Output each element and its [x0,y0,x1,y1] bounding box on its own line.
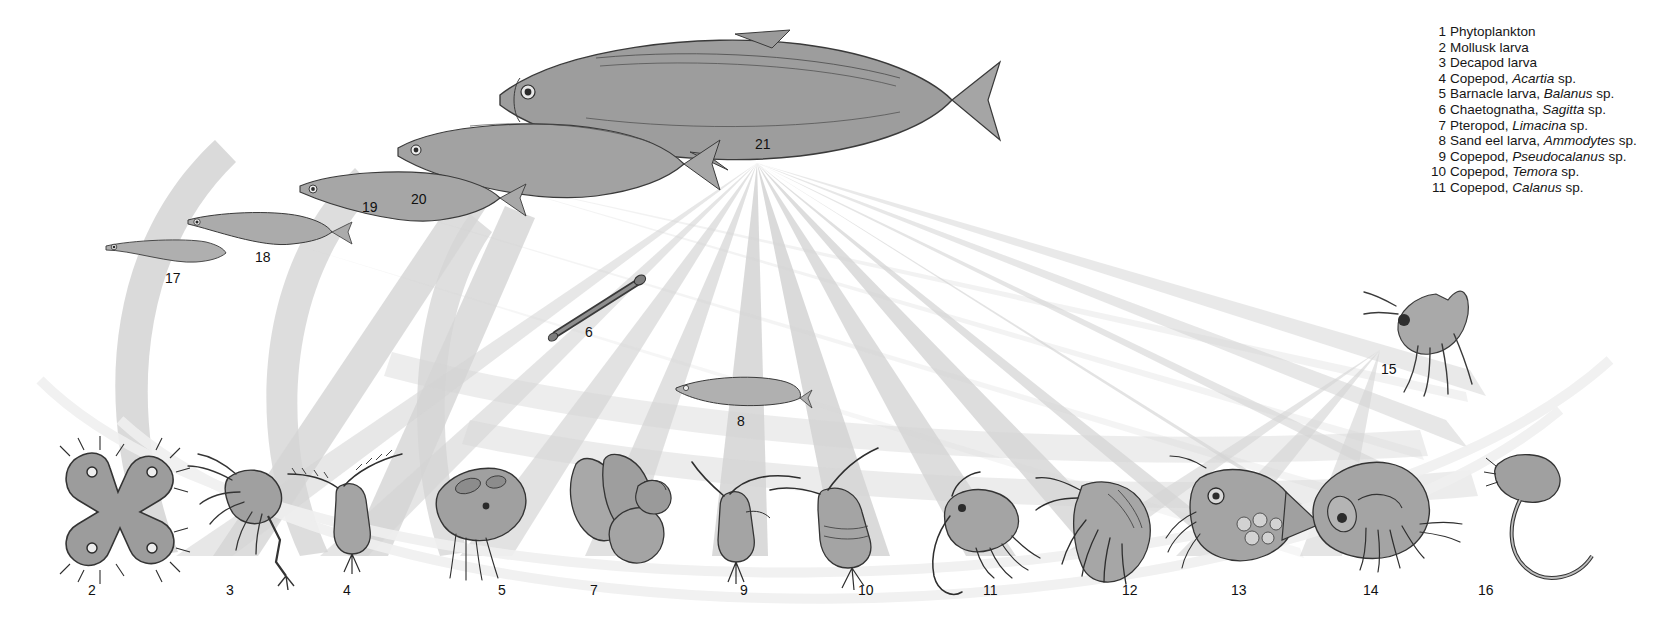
legend-suffix: sp. [1562,180,1584,195]
label-4: 4 [343,583,351,597]
label-6: 6 [585,325,593,339]
species-legend: 1Phytoplankton2Mollusk larva3Decapod lar… [1428,24,1654,196]
legend-text: Chaetognatha, [1450,102,1542,117]
legend-suffix: sp. [1605,149,1627,164]
legend-text: Pteropod, [1450,118,1512,133]
legend-item-11: 11Copepod, Calanus sp. [1428,180,1654,196]
label-15: 15 [1381,362,1397,376]
legend-text: Copepod, [1450,180,1512,195]
label-9: 9 [740,583,748,597]
legend-genus: Pseudocalanus [1512,149,1604,164]
legend-genus: Limacina [1512,118,1566,133]
label-11: 11 [983,583,998,597]
legend-suffix: sp. [1593,86,1615,101]
legend-genus: Balanus [1544,86,1593,101]
legend-suffix: sp. [1584,102,1606,117]
label-16: 16 [1478,583,1494,597]
legend-item-7: 7Pteropod, Limacina sp. [1428,118,1654,134]
legend-suffix: sp. [1615,133,1637,148]
label-5: 5 [498,583,506,597]
label-20: 20 [411,192,427,206]
legend-item-6: 6Chaetognatha, Sagitta sp. [1428,102,1654,118]
legend-number: 2 [1428,40,1446,56]
label-7: 7 [590,583,598,597]
label-13: 13 [1231,583,1247,597]
figure-canvas: 2 3 4 5 6 7 8 9 10 11 12 13 14 15 16 17 … [0,0,1654,642]
legend-number: 8 [1428,133,1446,149]
legend-genus: Temora [1512,164,1557,179]
legend-number: 9 [1428,149,1446,165]
legend-item-10: 10Copepod, Temora sp. [1428,164,1654,180]
legend-item-1: 1Phytoplankton [1428,24,1654,40]
legend-number: 6 [1428,102,1446,118]
legend-text: Sand eel larva, [1450,133,1544,148]
legend-item-4: 4Copepod, Acartia sp. [1428,71,1654,87]
legend-genus: Calanus [1512,180,1562,195]
art-worm-16 [1484,455,1592,578]
art-sand-eel-larva-8 [676,377,812,408]
label-17: 17 [165,271,181,285]
label-10: 10 [858,583,874,597]
trophic-flow-ribbons [0,0,1654,642]
legend-suffix: sp. [1558,164,1580,179]
label-21: 21 [755,137,771,151]
legend-number: 1 [1428,24,1446,40]
label-8: 8 [737,414,745,428]
legend-text: Copepod, [1450,164,1512,179]
legend-number: 10 [1428,164,1446,180]
legend-number: 5 [1428,86,1446,102]
legend-text: Barnacle larva, [1450,86,1544,101]
label-19: 19 [362,200,378,214]
label-12: 12 [1122,583,1138,597]
legend-genus: Sagitta [1542,102,1584,117]
art-herring-larva-17 [106,240,226,262]
legend-suffix: sp. [1554,71,1576,86]
legend-item-5: 5Barnacle larva, Balanus sp. [1428,86,1654,102]
legend-suffix: sp. [1566,118,1588,133]
legend-item-3: 3Decapod larva [1428,55,1654,71]
legend-text: Copepod, [1450,71,1512,86]
label-2: 2 [88,583,96,597]
legend-genus: Ammodytes [1544,133,1615,148]
legend-text: Phytoplankton [1450,24,1536,39]
legend-text: Decapod larva [1450,55,1537,70]
legend-number: 11 [1428,180,1446,196]
legend-text: Copepod, [1450,149,1512,164]
legend-number: 4 [1428,71,1446,87]
label-3: 3 [226,583,234,597]
legend-text: Mollusk larva [1450,40,1529,55]
legend-number: 7 [1428,118,1446,134]
legend-number: 3 [1428,55,1446,71]
legend-item-9: 9Copepod, Pseudocalanus sp. [1428,149,1654,165]
label-14: 14 [1363,583,1379,597]
legend-item-8: 8Sand eel larva, Ammodytes sp. [1428,133,1654,149]
legend-item-2: 2Mollusk larva [1428,40,1654,56]
label-18: 18 [255,250,271,264]
legend-genus: Acartia [1512,71,1554,86]
